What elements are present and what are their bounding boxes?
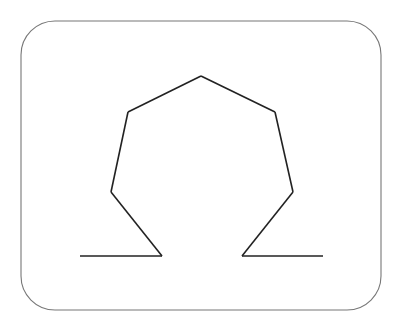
diagram-canvas [0, 0, 402, 323]
right-leg-line [242, 192, 293, 256]
right-shoulder-line [201, 76, 275, 112]
left-leg-line [111, 192, 162, 256]
left-side-line [111, 112, 128, 192]
right-side-line [275, 112, 293, 192]
omega-diagram [0, 0, 402, 323]
rounded-frame [21, 21, 381, 310]
omega-shape [80, 76, 323, 256]
left-shoulder-line [128, 76, 201, 112]
